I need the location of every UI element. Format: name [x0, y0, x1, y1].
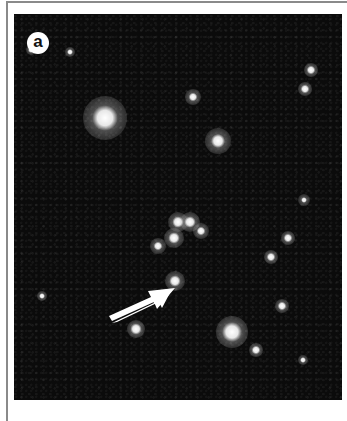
figure-frame-top	[6, 1, 347, 3]
panel-label-badge: a	[27, 32, 49, 54]
arrow-icon	[14, 14, 342, 400]
astronomy-image-panel: a	[14, 14, 342, 400]
figure-frame-left	[6, 1, 8, 421]
figure-caption-cropped	[14, 408, 344, 421]
